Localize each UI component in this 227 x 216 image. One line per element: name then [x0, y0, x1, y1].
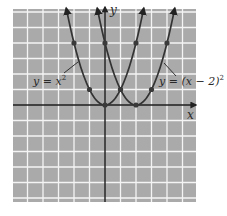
curve2-label: y = (x − 2)2	[158, 74, 224, 88]
curve2-label-text: y = (x − 2)	[158, 75, 219, 88]
data-point	[87, 87, 92, 92]
data-point	[102, 40, 107, 45]
data-point	[133, 40, 138, 45]
data-point	[71, 40, 76, 45]
data-point	[118, 87, 123, 92]
curve1-label-sup: 2	[62, 74, 66, 82]
curve1-label-text: y = x	[32, 75, 62, 88]
data-point	[102, 102, 107, 107]
parabola-chart: x y y = x2 y = (x − 2)2	[0, 0, 227, 216]
y-axis-label: y	[109, 3, 117, 17]
curve2-label-sup: 2	[219, 74, 223, 82]
data-point	[164, 40, 169, 45]
curve1-label: y = x2	[32, 74, 66, 88]
data-point	[149, 87, 154, 92]
x-axis-label: x	[187, 108, 194, 122]
data-point	[133, 102, 138, 107]
